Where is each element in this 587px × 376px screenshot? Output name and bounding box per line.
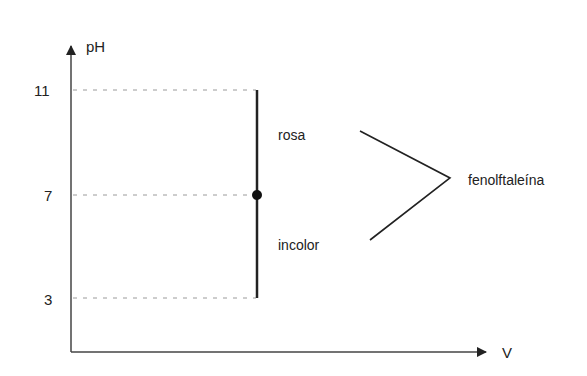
x-axis-label: V <box>502 344 512 361</box>
upper-color-label: rosa <box>278 127 305 143</box>
tick-label-7: 7 <box>44 187 52 204</box>
y-axis-label: pH <box>86 38 105 55</box>
bracket <box>360 131 450 240</box>
tick-label-3: 3 <box>44 291 52 308</box>
lower-color-label: incolor <box>278 237 320 253</box>
indicator-name: fenolftaleína <box>468 172 544 188</box>
ph-indicator-diagram: pH V 11 7 3 rosa incolor fenolftaleína <box>0 0 587 376</box>
transition-point <box>252 190 262 200</box>
tick-label-11: 11 <box>34 82 50 99</box>
